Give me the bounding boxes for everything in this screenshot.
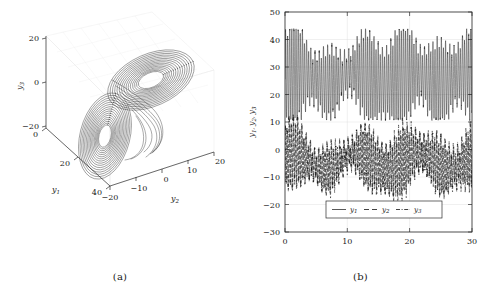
yb-tick-neg30: −30	[263, 228, 280, 237]
y1-tick-0: 0	[33, 130, 38, 139]
yb-axis-label: y1, y2, y3	[247, 106, 257, 139]
xb-tick-30: 30	[467, 237, 477, 246]
panel-a-phase-portrait: 20 0 −20 y3 0 20 40 y1	[0, 0, 240, 286]
series-y3-trace	[285, 114, 472, 198]
y2-tick-neg20: −20	[102, 193, 119, 202]
y2-tick-0: 0	[163, 175, 168, 184]
xb-tick-0: 0	[282, 237, 287, 246]
legend: y1 y2 y3	[326, 201, 442, 218]
yb-tick-20: 20	[270, 91, 280, 100]
y2-tick-10: 10	[187, 166, 197, 175]
yb-tick-50: 50	[270, 8, 280, 17]
z-tick-20: 20	[29, 34, 39, 43]
yb-tick-0: 0	[275, 146, 280, 155]
y2-tick-neg10: −10	[131, 184, 148, 193]
y2-axis: −20 −10 0 10 20 y2	[102, 152, 226, 204]
y2-axis-label: y2	[170, 194, 180, 204]
panel-b-time-series: 50 40 30 20 10 0 −10 −20 −30 y1, y2, y3	[240, 0, 481, 286]
legend-label-y1: y1	[349, 206, 357, 214]
z-tick-0: 0	[34, 78, 39, 87]
z-axis-label: y3	[15, 81, 25, 91]
y2-tick-20: 20	[215, 157, 225, 166]
series-y1-trace	[285, 29, 472, 121]
yb-tick-10: 10	[270, 118, 280, 127]
legend-label-y3: y3	[413, 206, 422, 214]
yb-tick-30: 30	[270, 63, 280, 72]
y1-tick-40: 40	[92, 188, 102, 197]
y1-tick-20: 20	[60, 159, 70, 168]
yb-tick-40: 40	[270, 36, 280, 45]
xb-tick-10: 10	[342, 237, 352, 246]
phase-portrait-svg: 20 0 −20 y3 0 20 40 y1	[0, 0, 240, 250]
panel-b-caption: (b)	[240, 271, 481, 282]
panel-a-caption: (a)	[0, 271, 240, 282]
attractor-trajectory	[70, 38, 204, 185]
xb-tick-20: 20	[405, 237, 415, 246]
legend-label-y2: y2	[381, 206, 390, 214]
y1-axis-label: y1	[51, 185, 60, 195]
yb-tick-neg20: −20	[263, 201, 280, 210]
time-series-svg: 50 40 30 20 10 0 −10 −20 −30 y1, y2, y3	[240, 0, 481, 250]
z-axis: 20 0 −20 y3	[15, 34, 46, 131]
figure-container: 20 0 −20 y3 0 20 40 y1	[0, 0, 481, 286]
yb-tick-neg10: −10	[263, 173, 280, 182]
